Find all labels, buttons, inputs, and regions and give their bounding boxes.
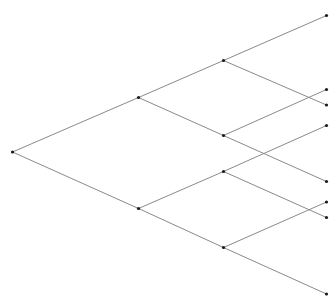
tree-edge [139, 61, 224, 98]
tree-node-l5 [325, 180, 328, 183]
tree-edge [139, 209, 224, 248]
tree-edge [139, 172, 224, 209]
tree-node-l8 [325, 292, 328, 295]
tree-node-l1 [325, 14, 328, 17]
tree-edge [224, 172, 327, 218]
tree-node-l3 [325, 103, 328, 106]
tree-edge [13, 98, 139, 153]
tree-diagram [0, 0, 333, 302]
tree-edge [224, 61, 327, 106]
tree-node-l6 [325, 200, 328, 203]
tree-node-l4 [325, 124, 328, 127]
tree-node-n1a [137, 96, 140, 99]
tree-node-l7 [325, 216, 328, 219]
tree-nodes [11, 14, 328, 296]
tree-edges [13, 16, 327, 295]
tree-node-n2c [222, 170, 225, 173]
tree-svg [0, 0, 333, 302]
tree-node-n2d [222, 246, 225, 249]
tree-edge [224, 16, 327, 61]
tree-edge [224, 126, 327, 172]
tree-edge [224, 90, 327, 136]
tree-edge [224, 136, 327, 182]
tree-edge [13, 152, 139, 209]
tree-node-root [11, 150, 14, 153]
tree-node-n2a [222, 59, 225, 62]
tree-edge [139, 98, 224, 136]
tree-edge [224, 202, 327, 248]
tree-node-n1b [137, 207, 140, 210]
tree-node-l2 [325, 88, 328, 91]
tree-edge [224, 248, 327, 295]
tree-node-n2b [222, 134, 225, 137]
